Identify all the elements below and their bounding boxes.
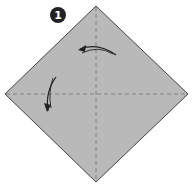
svg-text:1: 1 bbox=[54, 9, 62, 22]
origami-diagram: 1 bbox=[0, 0, 195, 185]
step-number-badge: 1 bbox=[50, 7, 66, 23]
